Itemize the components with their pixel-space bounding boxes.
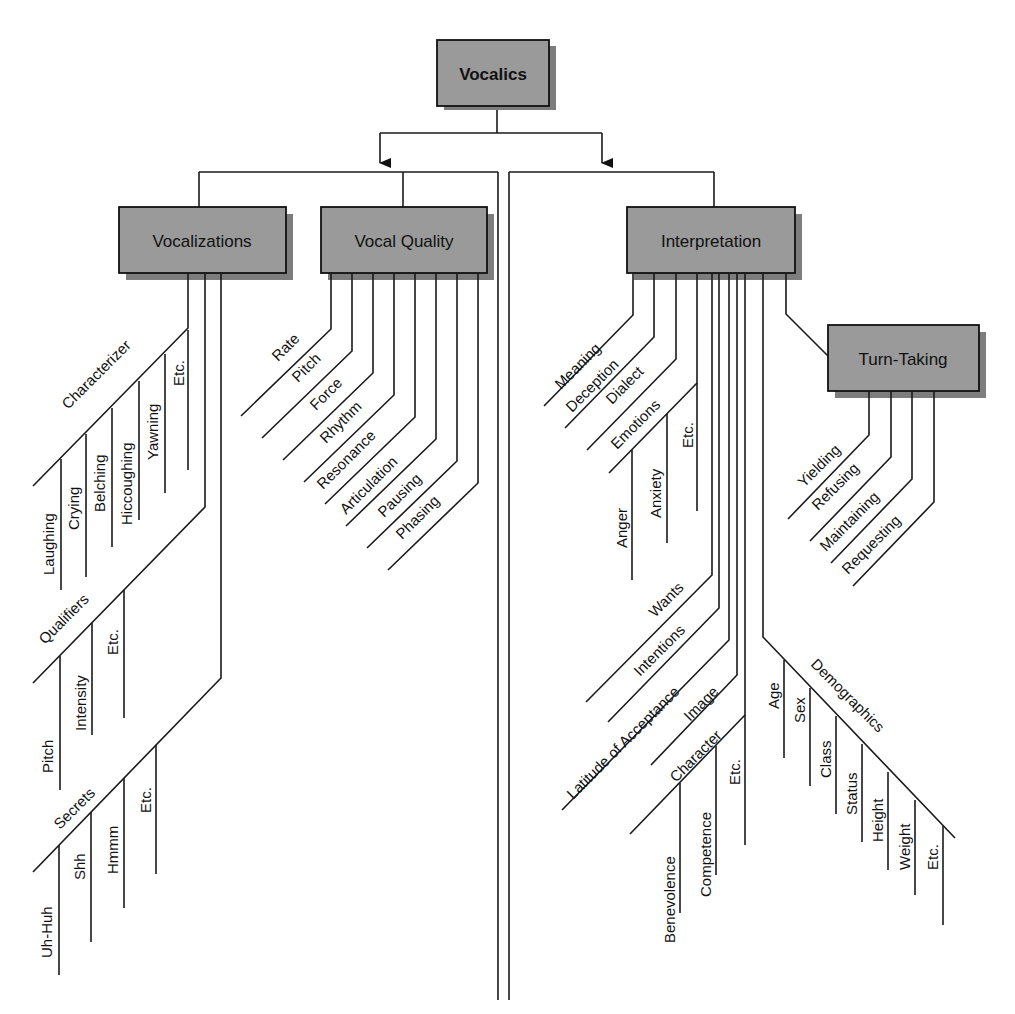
interpretation-label: Interpretation xyxy=(661,232,761,251)
secrets-item: Shh xyxy=(71,853,88,880)
character-item: Benevolence xyxy=(661,856,678,943)
qualifiers-item: Etc. xyxy=(104,629,121,655)
vocal-quality-item: Rate xyxy=(268,330,302,364)
emotions-item: Anger xyxy=(613,508,630,548)
root-label: Vocalics xyxy=(459,65,527,84)
qualifiers-item: Intensity xyxy=(72,675,89,731)
demographics-item: Sex xyxy=(791,697,808,723)
characterizer-item: Laughing xyxy=(40,513,57,575)
demographics-item: Status xyxy=(843,772,860,815)
vocal-quality-branches: Rate Pitch Force Rhythm Resonance Articu… xyxy=(241,273,478,570)
demographics-item: Height xyxy=(869,798,886,842)
characterizer-item: Etc. xyxy=(170,360,187,386)
interpretation-upper-branches: Meaning Deception Dialect xyxy=(544,273,676,450)
character-item: Etc. xyxy=(726,759,743,785)
character-item: Competence xyxy=(697,812,714,897)
vocalizations-node: Vocalizations xyxy=(119,207,293,280)
characterizer-item: Crying xyxy=(65,487,82,530)
secrets-item: Hmmm xyxy=(104,826,121,874)
vocal-quality-item: Pitch xyxy=(288,350,324,386)
characterizer-item: Yawning xyxy=(144,404,161,460)
demographics-item: Age xyxy=(765,682,782,709)
characterizer-item: Belching xyxy=(91,454,108,512)
demographics-item: Weight xyxy=(896,823,913,870)
emotions-item: Etc. xyxy=(679,422,696,448)
emotions-item: Anxiety xyxy=(647,468,664,518)
demographics-item: Class xyxy=(817,740,834,778)
demographics-label: Demographics xyxy=(808,655,888,735)
secrets-item: Uh-Huh xyxy=(38,906,55,958)
qualifiers-label: Qualifiers xyxy=(35,590,92,647)
vocalizations-label: Vocalizations xyxy=(152,232,251,251)
vocal-quality-node: Vocal Quality xyxy=(321,207,494,280)
root-node: Vocalics xyxy=(437,40,556,110)
qualifiers-item: Pitch xyxy=(39,740,56,773)
secrets-item: Etc. xyxy=(137,787,154,813)
vocalics-diagram: Vocalics Vocalizations Vocal Quality Int… xyxy=(0,0,1015,1014)
turn-taking-branches: Yielding Refusing Maintaining Requesting xyxy=(788,391,934,586)
interpretation-item: Wants xyxy=(645,578,687,620)
interpretation-item: Image xyxy=(680,683,722,725)
interpretation-item: Latitude of Acceptance xyxy=(563,683,682,802)
demographics-item: Etc. xyxy=(924,844,941,870)
characterizer-item: Hiccoughing xyxy=(118,442,135,525)
turn-taking-connector xyxy=(786,273,828,356)
vocal-quality-item: Force xyxy=(306,374,345,413)
characterizer-label: Characterizer xyxy=(58,336,134,412)
turn-taking-label: Turn-Taking xyxy=(858,350,947,369)
interpretation-node: Interpretation xyxy=(627,207,802,280)
characterizer-branch: Characterizer Laughing Crying Belching H… xyxy=(33,273,188,590)
vocal-quality-label: Vocal Quality xyxy=(354,232,454,251)
emotions-branch: Emotions Anger Anxiety Etc. xyxy=(607,273,697,580)
turn-taking-node: Turn-Taking xyxy=(828,325,986,398)
